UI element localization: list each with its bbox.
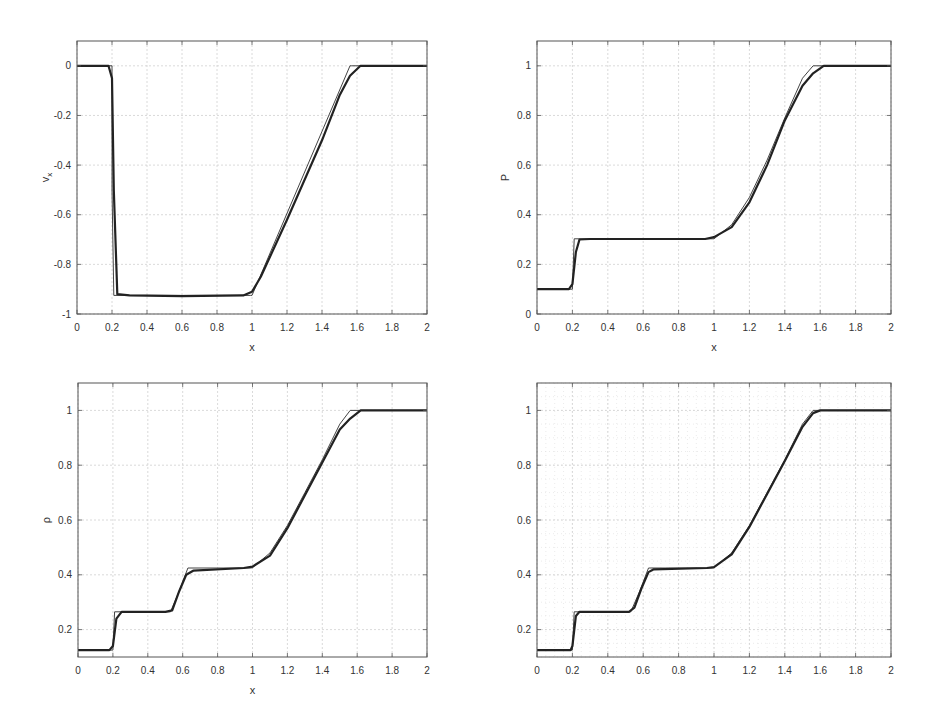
x-tick-label: 1.2 [280, 665, 294, 676]
x-tick-label: 2 [888, 665, 894, 676]
x-tick-label: 1.8 [385, 322, 399, 333]
x-tick-label: 0.6 [636, 322, 650, 333]
x-tick-label: 0 [75, 665, 81, 676]
y-axis-label: vx [39, 173, 54, 183]
x-tick-label: 0 [534, 665, 540, 676]
x-tick-label: 0.4 [601, 665, 615, 676]
x-tick-label: 0.4 [140, 322, 154, 333]
x-tick-label: 1.6 [813, 322, 827, 333]
x-tick-label: 1.2 [280, 322, 294, 333]
y-tick-label: 0 [65, 60, 71, 71]
y-tick-label: 0.6 [517, 160, 531, 171]
x-tick-label: 1.6 [813, 665, 827, 676]
x-axis-label: x [249, 341, 255, 353]
y-tick-label: -0.6 [54, 209, 72, 220]
x-tick-label: 0 [74, 322, 80, 333]
y-tick-label: 1 [66, 405, 72, 416]
x-axis-label: x [250, 684, 256, 696]
y-tick-label: 0.4 [517, 569, 531, 580]
x-tick-label: 0.2 [106, 665, 120, 676]
x-tick-label: 2 [888, 322, 894, 333]
figure: 00.20.40.60.811.21.41.61.82-1-0.8-0.6-0.… [0, 0, 946, 717]
y-tick-label: 0.6 [517, 515, 531, 526]
x-tick-label: 1.8 [849, 322, 863, 333]
y-tick-label: 0.4 [58, 569, 72, 580]
tick-labels: 00.20.40.60.811.21.41.61.82-1-0.8-0.6-0.… [54, 41, 430, 333]
y-axis-label: P [499, 174, 511, 181]
x-tick-label: 1 [250, 665, 256, 676]
series-numerical [537, 410, 891, 650]
series-exact [77, 66, 427, 296]
series-exact [537, 410, 891, 650]
x-tick-label: 1.8 [385, 665, 399, 676]
y-tick-label: 0.4 [517, 209, 531, 220]
x-tick-label: 1 [711, 322, 717, 333]
y-axis-label: ρ [40, 517, 52, 523]
figure-canvas: 00.20.40.60.811.21.41.61.82-1-0.8-0.6-0.… [0, 0, 946, 717]
x-tick-label: 1.2 [742, 322, 756, 333]
x-axis-label: x [711, 341, 717, 353]
x-tick-label: 2 [424, 322, 430, 333]
y-tick-label: 0.6 [58, 515, 72, 526]
x-tick-label: 0.6 [636, 665, 650, 676]
y-tick-label: -0.2 [54, 110, 72, 121]
x-tick-label: 0 [534, 322, 540, 333]
x-tick-label: 0.8 [211, 665, 225, 676]
x-tick-label: 0.8 [672, 665, 686, 676]
y-tick-label: -0.8 [54, 259, 72, 270]
major-grid [537, 41, 891, 314]
x-tick-label: 1.6 [350, 322, 364, 333]
x-tick-label: 1 [249, 322, 255, 333]
y-tick-label: 0.2 [517, 259, 531, 270]
chart-panel-top-right: 00.20.40.60.811.21.41.61.8200.20.40.60.8… [499, 41, 894, 353]
chart-panel-bottom-left: 00.20.40.60.811.21.41.61.820.20.40.60.81… [40, 383, 430, 696]
x-tick-label: 1.4 [778, 665, 792, 676]
y-tick-label: 0.2 [517, 624, 531, 635]
y-tick-label: 0 [525, 309, 531, 320]
y-tick-label: -1 [62, 309, 71, 320]
x-tick-label: 1.8 [849, 665, 863, 676]
x-tick-label: 0.2 [565, 665, 579, 676]
x-tick-label: 0.4 [601, 322, 615, 333]
x-tick-label: 0.8 [672, 322, 686, 333]
series-numerical [78, 410, 427, 650]
series-exact [78, 410, 427, 650]
x-tick-label: 0.2 [565, 322, 579, 333]
y-tick-label: 0.2 [58, 624, 72, 635]
major-grid [78, 383, 427, 657]
y-tick-label: 0.8 [58, 460, 72, 471]
x-tick-label: 1.6 [350, 665, 364, 676]
y-tick-label: 0.8 [517, 110, 531, 121]
y-tick-label: -0.4 [54, 160, 72, 171]
x-tick-label: 1.2 [742, 665, 756, 676]
major-grid [77, 41, 427, 314]
x-tick-label: 1.4 [778, 322, 792, 333]
x-tick-label: 1.4 [315, 322, 329, 333]
x-tick-label: 0.2 [105, 322, 119, 333]
tick-labels: 00.20.40.60.811.21.41.61.8200.20.40.60.8… [517, 41, 894, 333]
x-tick-label: 0.8 [210, 322, 224, 333]
x-tick-label: 2 [424, 665, 430, 676]
y-tick-label: 1 [525, 60, 531, 71]
y-tick-label: 0.8 [517, 460, 531, 471]
chart-panel-bottom-right: 00.20.40.60.811.21.41.61.820.20.40.60.81 [517, 383, 894, 676]
x-tick-label: 0.6 [176, 665, 190, 676]
chart-panel-top-left: 00.20.40.60.811.21.41.61.82-1-0.8-0.6-0.… [39, 41, 430, 353]
x-tick-label: 1 [711, 665, 717, 676]
x-tick-label: 1.4 [315, 665, 329, 676]
y-tick-label: 1 [525, 405, 531, 416]
x-tick-label: 0.6 [175, 322, 189, 333]
x-tick-label: 0.4 [141, 665, 155, 676]
